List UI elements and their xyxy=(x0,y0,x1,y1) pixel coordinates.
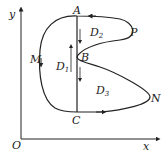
label-D3: D3 xyxy=(95,84,110,98)
label-D1: D1 xyxy=(55,60,69,74)
label-A: A xyxy=(72,4,81,17)
label-y: y xyxy=(8,8,16,21)
label-M: M xyxy=(29,53,42,66)
label-C: C xyxy=(72,114,81,127)
diagram: y x O A B C M N P D1 D2 D3 xyxy=(0,0,168,158)
label-B: B xyxy=(80,51,89,64)
label-P: P xyxy=(129,26,138,39)
label-N: N xyxy=(150,92,161,105)
label-origin: O xyxy=(12,139,21,152)
label-x: x xyxy=(143,140,150,153)
label-D2: D2 xyxy=(89,26,104,40)
